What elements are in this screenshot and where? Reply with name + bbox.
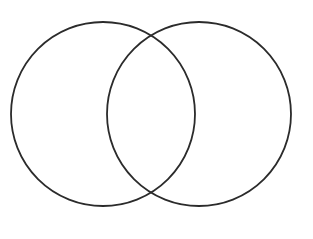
venn-circle-left[interactable] [11, 22, 195, 206]
venn-circle-right[interactable] [107, 22, 291, 206]
venn-diagram-svg [0, 0, 313, 239]
venn-diagram-canvas [0, 0, 313, 239]
